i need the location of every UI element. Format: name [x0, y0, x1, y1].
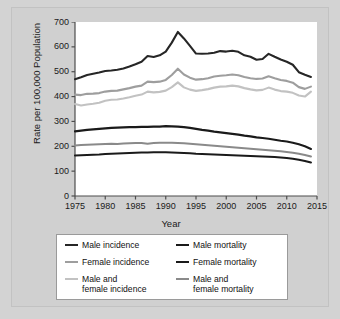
y-tick-label: 100	[43, 167, 69, 176]
y-tick-label: 700	[43, 18, 69, 27]
y-tick-label: 600	[43, 42, 69, 51]
legend-swatch-icon	[176, 278, 189, 281]
legend-item[interactable]: Male mortality	[176, 240, 283, 257]
chart-figure: 7006005004003002001000 19751980198519901…	[0, 0, 340, 319]
legend-swatch-icon	[176, 244, 189, 247]
x-tick-label: 2010	[272, 202, 302, 211]
legend-item[interactable]: Male incidence	[65, 240, 172, 257]
legend-item-label: Male and female mortality	[193, 274, 254, 294]
legend-item-label: Male and female incidence	[82, 274, 147, 294]
legend-swatch-icon	[65, 244, 78, 247]
series-line	[75, 126, 311, 149]
plot-area: 7006005004003002001000 19751980198519901…	[58, 22, 322, 204]
legend-item[interactable]: Male and female incidence	[65, 274, 172, 294]
x-tick-label: 1985	[121, 202, 151, 211]
chart-legend: Male incidenceMale mortalityFemale incid…	[56, 234, 288, 300]
x-tick-label: 2015	[302, 202, 332, 211]
legend-swatch-icon	[65, 261, 78, 264]
legend-item-label: Male mortality	[193, 240, 246, 250]
x-tick-label: 1980	[90, 202, 120, 211]
y-tick-label: 500	[43, 67, 69, 76]
legend-item[interactable]: Female mortality	[176, 257, 283, 274]
x-axis-label: Year	[12, 218, 330, 229]
legend-item-label: Male incidence	[82, 240, 139, 250]
legend-swatch-icon	[65, 278, 78, 281]
x-tick-label: 2000	[211, 202, 241, 211]
y-tick-label: 400	[43, 92, 69, 101]
legend-item-label: Female mortality	[193, 257, 257, 267]
x-tick-label: 1975	[60, 202, 90, 211]
series-line	[75, 82, 311, 105]
series-group	[75, 32, 311, 163]
axes-group	[72, 22, 318, 200]
y-axis-label: Rate per 100,000 Population	[31, 9, 42, 159]
legend-swatch-icon	[176, 261, 189, 264]
chart-panel: 7006005004003002001000 19751980198519901…	[11, 7, 329, 307]
legend-grid: Male incidenceMale mortalityFemale incid…	[57, 235, 287, 299]
x-tick-label: 1995	[181, 202, 211, 211]
y-tick-label: 300	[43, 117, 69, 126]
x-tick-label: 2005	[242, 202, 272, 211]
legend-item-label: Female incidence	[82, 257, 149, 267]
legend-item[interactable]: Male and female mortality	[176, 274, 283, 294]
series-line	[75, 152, 311, 162]
line-chart-svg	[58, 22, 322, 204]
y-tick-label: 200	[43, 142, 69, 151]
x-tick-label: 1990	[151, 202, 181, 211]
series-line	[75, 32, 311, 79]
legend-item[interactable]: Female incidence	[65, 257, 172, 274]
y-tick-label: 0	[43, 192, 69, 201]
